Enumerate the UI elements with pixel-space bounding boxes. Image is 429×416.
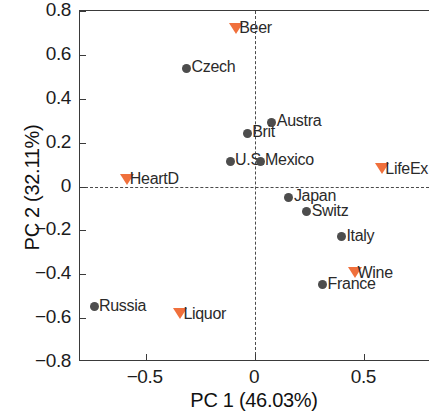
y-tick	[80, 55, 86, 56]
point-label: Russia	[99, 297, 146, 315]
point-label: Austra	[277, 112, 321, 130]
x-axis-title: PC 1 (46.03%)	[79, 389, 429, 412]
circle-marker-icon	[302, 207, 311, 216]
x-tick	[255, 354, 256, 360]
point-label: HeartD	[130, 170, 179, 188]
x-tick-label: −0.5	[105, 366, 185, 388]
point-label: Italy	[346, 227, 374, 245]
x-tick	[364, 354, 365, 360]
y-tick	[80, 187, 86, 188]
y-tick-label: −0.8	[0, 350, 71, 372]
y-tick	[80, 143, 86, 144]
circle-marker-icon	[318, 280, 327, 289]
y-tick-label: 0.8	[0, 0, 71, 21]
y-tick	[80, 99, 86, 100]
plot-area: CzechAustraBritU.S.MexicoJapanSwitzItaly…	[79, 10, 429, 361]
y-axis-title: PC 2 (32.11%)	[21, 48, 44, 328]
y-tick	[80, 318, 86, 319]
point-label: Beer	[239, 19, 272, 37]
point-label: LifeEx	[385, 160, 428, 178]
circle-marker-icon	[256, 157, 265, 166]
x-tick-label: 0	[214, 366, 294, 388]
circle-marker-icon	[284, 193, 293, 202]
reference-line-vertical	[255, 11, 256, 360]
point-label: Czech	[192, 58, 236, 76]
x-tick	[146, 354, 147, 360]
circle-marker-icon	[226, 157, 235, 166]
y-tick	[80, 230, 86, 231]
y-tick	[80, 11, 86, 12]
point-label: Mexico	[265, 151, 314, 169]
point-label: Liquor	[183, 305, 226, 323]
y-tick	[80, 274, 86, 275]
x-tick-label: 0.5	[323, 366, 403, 388]
circle-marker-icon	[90, 302, 99, 311]
circle-marker-icon	[243, 129, 252, 138]
point-label: Brit	[252, 123, 275, 141]
circle-marker-icon	[337, 232, 346, 241]
point-label: Switz	[312, 202, 349, 220]
pca-biplot-figure: CzechAustraBritU.S.MexicoJapanSwitzItaly…	[0, 0, 429, 416]
point-label: Wine	[358, 264, 393, 282]
circle-marker-icon	[182, 64, 191, 73]
